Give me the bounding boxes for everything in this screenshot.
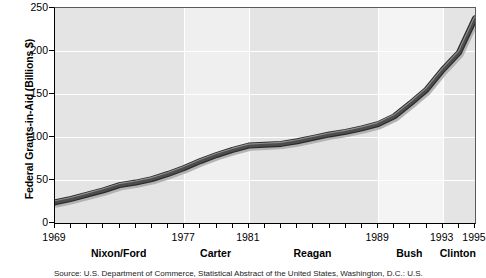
y-axis-tick-label: 150 — [22, 88, 48, 98]
x-axis-tick-mark — [280, 223, 281, 228]
x-axis-tick-label: 1981 — [236, 231, 259, 243]
x-axis-tick-mark — [442, 223, 443, 228]
x-axis-tick-mark — [167, 223, 168, 228]
data-line-outline — [55, 18, 475, 202]
x-axis-tick-mark — [409, 223, 410, 228]
x-axis-tick-mark — [458, 223, 459, 228]
era-label-bush: Bush — [396, 247, 422, 259]
x-axis-tick-mark-group — [54, 223, 476, 229]
x-axis-tick-mark — [474, 223, 475, 228]
x-axis-tick-mark — [296, 223, 297, 228]
x-axis-tick-label: 1995 — [462, 231, 485, 243]
x-axis-tick-label: 1969 — [42, 231, 65, 243]
x-axis-tick-mark — [151, 223, 152, 228]
x-axis-tick-mark — [312, 223, 313, 228]
x-axis-tick-mark — [248, 223, 249, 228]
x-axis-tick-mark — [119, 223, 120, 228]
x-axis-tick-label-group: 196919771981198919931995 — [0, 231, 481, 245]
x-axis-tick-mark — [216, 223, 217, 228]
x-axis-tick-mark — [232, 223, 233, 228]
data-line-svg — [55, 8, 475, 223]
era-label-nixon-ford: Nixon/Ford — [91, 247, 146, 259]
x-axis-tick-mark — [426, 223, 427, 228]
x-axis-tick-mark — [199, 223, 200, 228]
x-axis-tick-mark — [102, 223, 103, 228]
x-axis-tick-mark — [329, 223, 330, 228]
era-label-carter: Carter — [200, 247, 231, 259]
x-axis-tick-mark — [345, 223, 346, 228]
x-axis-tick-mark — [54, 223, 55, 228]
data-line-shadow — [57, 21, 475, 205]
era-label-reagan: Reagan — [293, 247, 331, 259]
x-axis-tick-mark — [393, 223, 394, 228]
x-axis-tick-mark — [183, 223, 184, 228]
plot-inner — [55, 8, 475, 223]
y-axis-tick-label: 100 — [22, 131, 48, 141]
era-label-group: Nixon/FordCarterReaganBushClinton — [0, 247, 481, 261]
x-axis-tick-mark — [377, 223, 378, 228]
x-axis-tick-label: 1977 — [172, 231, 195, 243]
era-label-clinton: Clinton — [440, 247, 476, 259]
x-axis-tick-mark — [361, 223, 362, 228]
data-line — [55, 18, 475, 202]
x-axis-tick-label: 1993 — [430, 231, 453, 243]
y-axis-tick-label: 0 — [22, 217, 48, 227]
x-axis-tick-label: 1989 — [365, 231, 388, 243]
source-note: Source: U.S. Department of Commerce, Sta… — [54, 269, 481, 278]
x-axis-tick-mark — [135, 223, 136, 228]
x-axis-tick-mark — [70, 223, 71, 228]
x-axis-tick-mark — [264, 223, 265, 228]
plot-area — [54, 7, 476, 224]
x-axis-tick-mark — [86, 223, 87, 228]
y-axis-tick-label: 200 — [22, 45, 48, 55]
y-axis-tick-label: 250 — [22, 2, 48, 12]
y-axis-tick-label: 50 — [22, 174, 48, 184]
